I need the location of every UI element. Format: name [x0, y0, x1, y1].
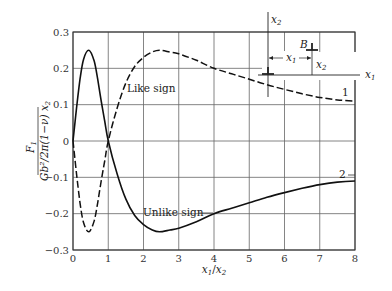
y-tick-label: 0.3: [53, 27, 69, 38]
chart: 012345678 0.30.20.10−0.1−0.2−0.3 Like si…: [0, 0, 392, 291]
x-axis-label: x1/x2: [202, 263, 227, 277]
inset-b-label: B: [299, 38, 308, 50]
curve-2-number: 2: [339, 168, 355, 180]
x-tick-label: 0: [70, 253, 76, 264]
y-tick-label: −0.3: [45, 245, 69, 256]
unlike-sign-annotation: Unlike sign: [143, 206, 213, 218]
unlike-sign-label: Unlike sign: [143, 206, 204, 218]
y-axis-label: F1 Gb²/2π(1−ν) x2: [24, 101, 52, 181]
y-tick-label: 0.1: [53, 99, 69, 110]
svg-text:F1: F1: [24, 141, 38, 154]
x-tick-label: 2: [140, 253, 146, 264]
x-tick-label: 1: [105, 253, 111, 264]
x-tick-label: 7: [317, 253, 323, 264]
x-tick-label: 8: [352, 253, 358, 264]
svg-text:Gb²/2π(1−ν) x2: Gb²/2π(1−ν) x2: [38, 101, 52, 181]
svg-text:2: 2: [339, 168, 346, 180]
y-tick-label: −0.2: [45, 208, 69, 219]
x-tick-label: 5: [246, 253, 252, 264]
x-tick-label: 3: [176, 253, 182, 264]
y-tick-label: 0: [63, 136, 69, 147]
dislocation-b-icon: [306, 43, 318, 50]
inset-x2-axis-label: x2: [271, 13, 282, 27]
like-sign-label: Like sign: [127, 82, 176, 94]
y-tick-label: 0.2: [53, 63, 69, 74]
x-tick-label: 6: [281, 253, 287, 264]
svg-text:1: 1: [342, 86, 349, 98]
inset-x1-axis-label: x1: [365, 68, 375, 82]
curve-1-number: 1: [342, 86, 349, 98]
